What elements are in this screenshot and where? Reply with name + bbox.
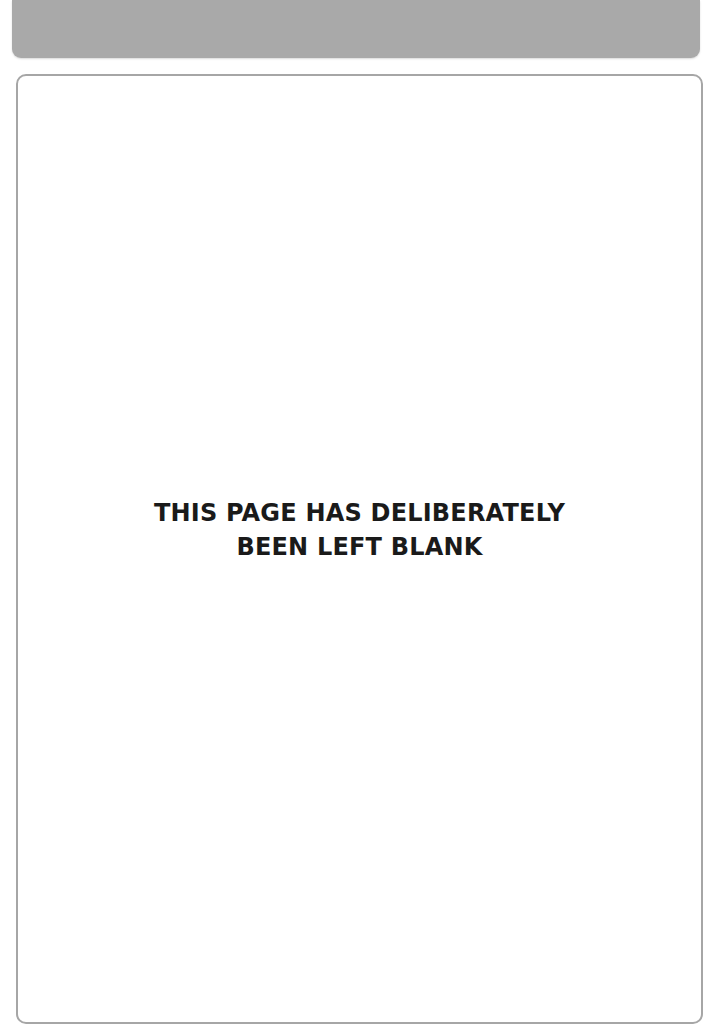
notice-line-1: THIS PAGE HAS DELIBERATELY: [18, 496, 701, 530]
notice-line-2: BEEN LEFT BLANK: [18, 530, 701, 564]
blank-page-notice: THIS PAGE HAS DELIBERATELY BEEN LEFT BLA…: [18, 496, 701, 564]
page-panel: THIS PAGE HAS DELIBERATELY BEEN LEFT BLA…: [16, 74, 703, 1024]
header-band: [12, 0, 700, 58]
